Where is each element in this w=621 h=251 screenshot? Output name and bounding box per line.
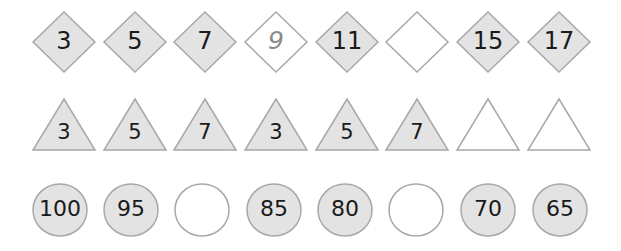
circle-value: 100: [32, 196, 88, 221]
diamond-6-blank[interactable]: [385, 11, 449, 73]
circle-value: 70: [460, 196, 516, 221]
diamond-value: 7: [173, 27, 237, 55]
circle-value: 85: [246, 196, 302, 221]
triangle-value: 7: [173, 120, 237, 144]
diamond-3: 7: [173, 11, 237, 73]
triangle-2: 5: [103, 98, 167, 151]
triangle-value: 3: [244, 120, 308, 144]
circle-8: 65: [532, 183, 588, 237]
circle-shape-icon: [174, 183, 230, 237]
diamond-value: 5: [103, 27, 167, 55]
diamond-value: 15: [456, 27, 520, 55]
diamond-8: 17: [527, 11, 591, 73]
triangle-8-blank[interactable]: [527, 98, 591, 151]
triangle-value: 3: [32, 120, 96, 144]
diamond-5: 11: [315, 11, 379, 73]
triangle-shape-icon: [527, 98, 591, 151]
circle-7: 70: [460, 183, 516, 237]
diamond-value: 3: [32, 27, 96, 55]
triangle-3: 7: [173, 98, 237, 151]
circle-value: 80: [317, 196, 373, 221]
circle-5: 80: [317, 183, 373, 237]
diamond-hint-value: 9: [244, 26, 308, 55]
triangle-7-blank[interactable]: [456, 98, 520, 151]
diamond-value: 17: [527, 27, 591, 55]
circle-3-blank[interactable]: [174, 183, 230, 237]
diamond-4-answer: 9: [244, 11, 308, 73]
circle-value: 65: [532, 196, 588, 221]
circle-4: 85: [246, 183, 302, 237]
circle-6-blank[interactable]: [388, 183, 444, 237]
triangle-value: 5: [315, 120, 379, 144]
circle-1: 100: [32, 183, 88, 237]
triangle-5: 5: [315, 98, 379, 151]
diamond-shape-icon: [385, 11, 449, 73]
circle-2: 95: [103, 183, 159, 237]
triangle-4: 3: [244, 98, 308, 151]
diamond-7: 15: [456, 11, 520, 73]
triangle-value: 7: [385, 120, 449, 144]
circle-shape-icon: [388, 183, 444, 237]
circle-value: 95: [103, 196, 159, 221]
diamond-1: 3: [32, 11, 96, 73]
triangle-6: 7: [385, 98, 449, 151]
diamond-value: 11: [315, 27, 379, 55]
triangle-value: 5: [103, 120, 167, 144]
triangle-shape-icon: [456, 98, 520, 151]
triangle-1: 3: [32, 98, 96, 151]
diamond-2: 5: [103, 11, 167, 73]
